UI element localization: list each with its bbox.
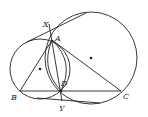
- label-B: B: [10, 93, 17, 102]
- point-D-dot: [60, 90, 63, 93]
- label-D: D: [60, 79, 68, 88]
- geometry-diagram: X A B C D Y: [0, 0, 148, 117]
- label-C: C: [123, 92, 129, 101]
- segment-AB: [20, 40, 52, 91]
- label-X: X: [42, 20, 49, 29]
- label-Y: Y: [59, 104, 65, 113]
- label-A: A: [54, 34, 61, 43]
- large-circle-center-dot: [90, 57, 93, 60]
- diagram-svg: X A B C D Y: [0, 0, 148, 117]
- tangent-bottom: [37, 98, 100, 103]
- small-circle-center-dot: [39, 68, 42, 71]
